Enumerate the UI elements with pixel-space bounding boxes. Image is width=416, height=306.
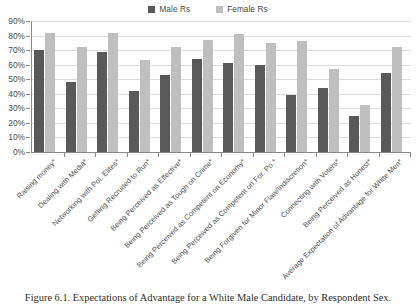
y-tick-mark xyxy=(26,79,30,80)
bar-female xyxy=(140,60,150,152)
y-tick-label: 30% xyxy=(8,103,25,113)
chart-legend: Male RsFemale Rs xyxy=(0,2,416,16)
bar-female xyxy=(203,40,213,152)
bar-male xyxy=(223,63,233,152)
bar-group xyxy=(347,21,379,152)
bar-series-container xyxy=(32,21,410,152)
x-category-label: Getting Recruited to Run* xyxy=(86,157,153,224)
x-category-label: Connecting with Voters* xyxy=(279,157,342,220)
bar-group xyxy=(379,21,411,152)
legend-label: Female Rs xyxy=(227,5,267,14)
bar-group xyxy=(158,21,190,152)
y-tick-mark xyxy=(26,94,30,95)
y-tick-label: 10% xyxy=(8,132,25,142)
y-tick-mark xyxy=(26,21,30,22)
bar-group xyxy=(64,21,96,152)
bar-group xyxy=(316,21,348,152)
y-tick-mark xyxy=(26,36,30,37)
bar-female xyxy=(171,47,181,152)
y-tick-label: 60% xyxy=(8,60,25,70)
y-tick-mark xyxy=(26,65,30,66)
y-tick-mark xyxy=(26,50,30,51)
bar-male xyxy=(349,116,359,152)
y-tick-label: 0% xyxy=(13,147,25,157)
bar-male xyxy=(34,50,44,152)
bar-male xyxy=(192,59,202,152)
bar-male xyxy=(66,82,76,152)
bar-female xyxy=(108,33,118,152)
figure-container: Male RsFemale Rs 0%10%20%30%40%50%60%70%… xyxy=(0,0,416,306)
y-tick-mark xyxy=(26,123,30,124)
bar-male xyxy=(318,88,328,152)
bar-female xyxy=(360,105,370,152)
bar-group xyxy=(190,21,222,152)
bar-group xyxy=(221,21,253,152)
figure-caption: Figure 6.1. Expectations of Advantage fo… xyxy=(0,292,416,303)
bar-group xyxy=(284,21,316,152)
y-tick-label: 50% xyxy=(8,74,25,84)
x-axis-labels: Raising money*Dealing with Media*Network… xyxy=(0,157,416,285)
bar-female xyxy=(234,34,244,152)
bar-female xyxy=(329,69,339,152)
y-tick-label: 20% xyxy=(8,118,25,128)
bar-group xyxy=(253,21,285,152)
bar-female xyxy=(266,43,276,152)
legend-entry-female-rs: Female Rs xyxy=(216,5,267,14)
y-tick-label: 40% xyxy=(8,89,25,99)
y-tick-label: 80% xyxy=(8,31,25,41)
y-tick-mark xyxy=(26,108,30,109)
y-tick-label: 70% xyxy=(8,45,25,55)
bar-male xyxy=(97,52,107,152)
x-category-label: Average Expectation of Advantage for Whi… xyxy=(280,157,404,281)
bar-female xyxy=(297,41,307,152)
bar-female xyxy=(45,33,55,152)
legend-swatch-icon xyxy=(216,6,223,13)
bar-female xyxy=(77,47,87,152)
bar-male xyxy=(255,65,265,152)
bar-male xyxy=(160,75,170,152)
bar-female xyxy=(392,47,402,152)
legend-swatch-icon xyxy=(148,6,155,13)
legend-label: Male Rs xyxy=(159,5,190,14)
y-tick-mark xyxy=(26,152,30,153)
bar-group xyxy=(127,21,159,152)
bar-male xyxy=(286,95,296,152)
legend-entry-male-rs: Male Rs xyxy=(148,5,190,14)
y-tick-mark xyxy=(26,137,30,138)
bar-male xyxy=(381,73,391,152)
bar-group xyxy=(32,21,64,152)
bar-male xyxy=(129,91,139,152)
y-tick-label: 90% xyxy=(8,16,25,26)
y-axis: 0%10%20%30%40%50%60%70%80%90% xyxy=(0,21,29,152)
bar-group xyxy=(95,21,127,152)
